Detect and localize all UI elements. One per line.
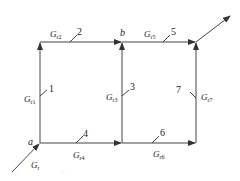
gain-label-4: Gr4 — [73, 151, 85, 161]
figure-caption: ··· — [60, 168, 67, 176]
gain-label-6: Gr6 — [153, 150, 165, 160]
gain-label-1: Gr1 — [24, 95, 36, 105]
branch-number-6: 6 — [160, 128, 165, 138]
gain-label-5: Gr5 — [144, 30, 156, 40]
gain-label-7: Gr7 — [201, 93, 213, 103]
branch-number-7: 7 — [176, 85, 181, 95]
gain-label-2: Gr2 — [50, 30, 62, 40]
node-label-a: a — [28, 137, 33, 147]
node-label-b: b — [120, 28, 125, 38]
branch-number-5: 5 — [171, 27, 176, 37]
branch-number-1: 1 — [49, 84, 54, 94]
gain-label-input: Gr — [31, 161, 40, 171]
branch-number-4: 4 — [83, 129, 88, 139]
branch-number-2: 2 — [77, 27, 82, 37]
branch-number-3: 3 — [130, 82, 135, 92]
output-arrow — [196, 16, 230, 42]
gain-label-3: Gr3 — [106, 93, 118, 103]
